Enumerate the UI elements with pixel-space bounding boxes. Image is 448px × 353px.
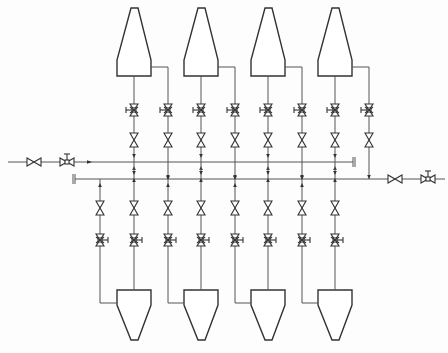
valve-body [27,158,41,166]
gate-valve-icon [331,201,339,215]
cyclone-upper-U2 [184,8,218,76]
arrow-up-icon [166,183,170,187]
valve-body [388,175,402,183]
gate-valve-icon [164,133,172,147]
control-valve-icon [197,234,209,246]
control-valve-icon [130,234,142,246]
gate-valve-icon [96,201,104,215]
control-valve-icon [164,234,176,246]
valve-body [264,133,272,147]
control-valve-icon [361,104,373,116]
cyclone-lower-L2 [184,290,218,340]
control-valve-icon [126,104,138,116]
valve-body [231,201,239,215]
cyclone-lower-L4 [318,290,352,340]
arrow-down-icon [333,154,337,158]
arrow-down-icon [333,171,337,175]
control-valve-icon [193,104,205,116]
valve-body [331,201,339,215]
valve-body [164,133,172,147]
gate-valve-icon [365,133,373,147]
valve-body [264,201,272,215]
gate-valve-icon [231,133,239,147]
valve-body [197,201,205,215]
arrow-up-icon [233,183,237,187]
arrow-up-icon [98,183,102,187]
gate-valve-icon [130,133,138,147]
cyclone-upper-U3 [251,8,285,76]
valve-body [164,201,172,215]
valve-body [331,133,339,147]
gate-valve-icon [231,201,239,215]
arrow-down-icon [266,171,270,175]
control-valve-icon [227,104,239,116]
valve-body [197,133,205,147]
gate-valve-icon [264,133,272,147]
arrow-down-icon [266,154,270,158]
valve-body [298,133,306,147]
control-valve-icon [96,234,108,246]
gate-valve-icon [197,133,205,147]
valve-body [365,133,373,147]
arrow-right-icon [87,160,92,164]
cyclone-lower-L1 [117,290,151,340]
gate-valve-icon [27,158,41,166]
diagram-svg [0,0,448,353]
gate-valve-icon [197,201,205,215]
gate-valve-icon [388,175,402,183]
control-valve-icon [327,104,339,116]
arrow-down-icon [199,171,203,175]
valve-body [130,133,138,147]
control-valve-icon [260,104,272,116]
cyclone-upper-U1 [117,8,151,76]
valve-actuator [65,160,69,164]
gate-valve-icon [298,133,306,147]
control-valve-icon [298,234,310,246]
arrow-down-icon [367,175,371,179]
valve-body [298,201,306,215]
arrow-down-icon [132,171,136,175]
gate-valve-icon [264,201,272,215]
control-valve-icon [421,171,435,183]
process-diagram [0,0,448,353]
control-valve-icon [264,234,276,246]
valve-body [96,201,104,215]
gate-valve-icon [331,133,339,147]
control-valve-icon [331,234,343,246]
arrow-down-icon [199,154,203,158]
control-valve-icon [294,104,306,116]
valve-body [231,133,239,147]
arrow-down-icon [132,154,136,158]
gate-valve-icon [130,201,138,215]
gate-valve-icon [164,201,172,215]
arrow-up-icon [300,183,304,187]
valve-actuator [426,177,430,181]
control-valve-icon [160,104,172,116]
control-valve-icon [60,154,74,166]
control-valve-icon [231,234,243,246]
cyclone-upper-U4 [318,8,352,76]
gate-valve-icon [298,201,306,215]
cyclone-lower-L3 [251,290,285,340]
valve-body [130,201,138,215]
